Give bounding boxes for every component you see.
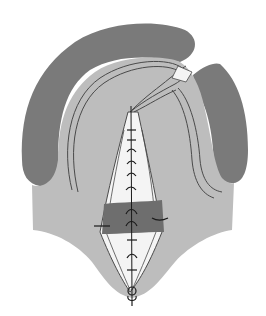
muscle-band	[102, 200, 164, 234]
palate-diagram	[0, 0, 266, 316]
